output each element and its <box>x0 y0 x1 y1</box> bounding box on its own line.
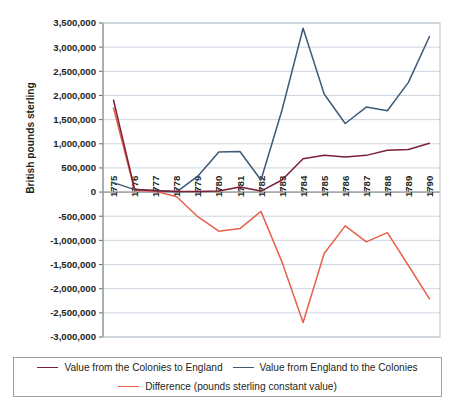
legend-swatch-england-to-colonies <box>233 367 254 368</box>
y-tick-label: 1,000,000 <box>53 138 96 149</box>
y-tick-label: 500,000 <box>61 162 96 173</box>
x-tick-label: 1784 <box>298 175 309 197</box>
chart-figure: 3,500,0003,000,0002,500,0002,000,0001,50… <box>0 0 455 409</box>
y-tick-label: -3,000,000 <box>50 331 96 342</box>
x-tick-label: 1787 <box>361 176 372 197</box>
x-tick-label: 1780 <box>213 176 224 197</box>
x-tick-label: 1785 <box>319 175 330 197</box>
y-axis-title: British pounds sterling <box>25 82 36 194</box>
y-tick-label: -1,500,000 <box>50 259 96 270</box>
y-tick-label: -500,000 <box>58 211 96 222</box>
x-tick-label: 1790 <box>424 176 435 197</box>
legend-entry-england-to-colonies: Value from England to the Colonies <box>233 362 418 373</box>
legend-label-difference: Difference (pounds sterling constant val… <box>145 381 337 392</box>
y-tick-label: -1,000,000 <box>50 235 96 246</box>
y-tick-label: -2,500,000 <box>50 307 96 318</box>
legend-label-england-to-colonies: Value from England to the Colonies <box>260 362 418 373</box>
y-tick-label: 2,500,000 <box>53 66 96 77</box>
x-tick-label: 1775 <box>108 175 119 197</box>
x-tick-label: 1781 <box>235 175 246 197</box>
x-tick-label: 1786 <box>340 176 351 197</box>
legend-entry-colonies-to-england: Value from the Colonies to England <box>37 362 222 373</box>
y-tick-label: 2,000,000 <box>53 90 96 101</box>
legend-label-colonies-to-england: Value from the Colonies to England <box>64 362 222 373</box>
x-tick-label: 1777 <box>150 176 161 197</box>
legend-row-bottom: Difference (pounds sterling constant val… <box>14 377 441 396</box>
y-tick-label: -2,000,000 <box>50 283 96 294</box>
y-tick-label: 3,000,000 <box>53 42 96 53</box>
legend-entry-difference: Difference (pounds sterling constant val… <box>118 381 337 392</box>
legend-swatch-difference <box>118 386 139 387</box>
x-tick-label: 1788 <box>382 175 393 197</box>
y-tick-label: 0 <box>91 186 96 197</box>
x-tick-label: 1778 <box>171 175 182 197</box>
x-tick-label: 1789 <box>403 176 414 197</box>
y-tick-label: 1,500,000 <box>53 114 96 125</box>
y-tick-label: 3,500,000 <box>53 17 96 28</box>
line-chart-plot: 3,500,0003,000,0002,500,0002,000,0001,50… <box>0 0 455 409</box>
legend-row-top: Value from the Colonies to England Value… <box>14 358 441 377</box>
chart-legend: Value from the Colonies to England Value… <box>13 357 442 397</box>
legend-swatch-colonies-to-england <box>37 367 58 368</box>
